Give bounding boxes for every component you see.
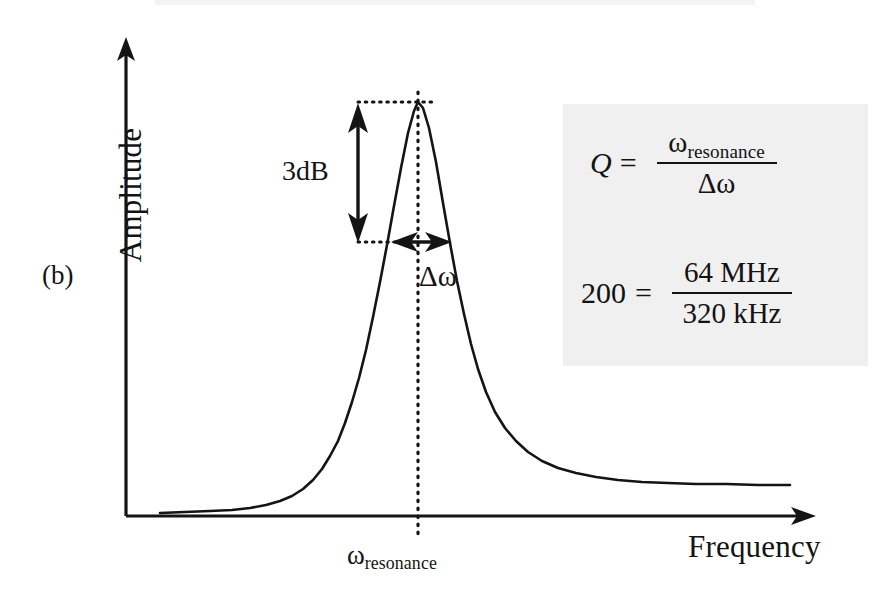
panel-label: (b) bbox=[42, 262, 73, 289]
three-db-double-arrow bbox=[348, 103, 368, 243]
formula-panel: Q= ωresonance Δω 200= 64 MHz 320 kHz bbox=[563, 104, 868, 366]
q-numeric-equals-sign: = bbox=[635, 276, 652, 309]
numerator-omega-subscript: resonance bbox=[687, 141, 764, 162]
omega-resonance-base: ω bbox=[347, 540, 365, 570]
y-axis-label: Amplitude bbox=[115, 65, 146, 325]
x-axis-label: Frequency bbox=[688, 531, 821, 562]
q-definition-lhs: Q= bbox=[590, 146, 637, 180]
q-numeric-denominator: 320 kHz bbox=[676, 294, 787, 330]
q-definition-equation: Q= ωresonance Δω bbox=[590, 126, 777, 200]
q-symbol: Q bbox=[590, 146, 612, 179]
q-numeric-value: 200 bbox=[581, 276, 626, 309]
q-definition-denominator: Δω bbox=[692, 164, 742, 200]
delta-omega-label: Δω bbox=[419, 262, 457, 291]
numerator-omega-base: ω bbox=[668, 126, 687, 158]
q-numeric-fraction: 64 MHz 320 kHz bbox=[672, 256, 792, 330]
omega-resonance-label: ωresonance bbox=[347, 542, 437, 569]
omega-resonance-subscript: resonance bbox=[365, 553, 437, 573]
q-equals-sign: = bbox=[620, 146, 637, 179]
q-definition-fraction: ωresonance Δω bbox=[657, 126, 777, 200]
q-numeric-numerator: 64 MHz bbox=[678, 256, 786, 292]
delta-omega-double-arrow bbox=[391, 232, 452, 252]
q-numeric-lhs: 200= bbox=[581, 276, 652, 310]
guide-lines-group bbox=[358, 92, 432, 540]
q-numeric-equation: 200= 64 MHz 320 kHz bbox=[581, 256, 792, 330]
bandwidth-3db-label: 3dB bbox=[282, 157, 329, 185]
resonance-figure: Amplitude Frequency (b) 3dB Δω ωresonanc… bbox=[0, 0, 896, 607]
q-definition-numerator: ωresonance bbox=[662, 126, 770, 162]
